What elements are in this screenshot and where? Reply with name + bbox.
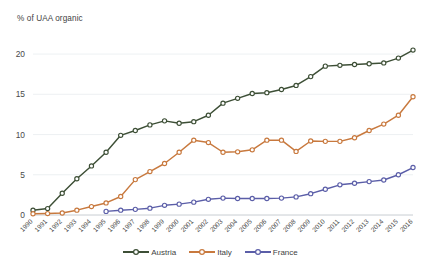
legend-item-austria[interactable]: Austria [123, 247, 176, 257]
series-point-marker [250, 91, 254, 95]
series-point-marker [294, 83, 298, 87]
series-point-marker [104, 201, 108, 205]
series-point-marker [265, 91, 269, 95]
x-axis-tick-label: 2001 [179, 218, 195, 234]
series-point-marker [60, 211, 64, 215]
x-axis-tick-label: 2014 [369, 218, 385, 234]
series-point-marker [338, 63, 342, 67]
series-point-marker [294, 195, 298, 199]
series-point-marker [352, 62, 356, 66]
chart-legend: AustriaItalyFrance [0, 247, 421, 257]
x-axis-tick-label: 1996 [106, 218, 122, 234]
x-axis-tick-label: 2006 [252, 218, 268, 234]
series-point-marker [382, 178, 386, 182]
x-axis-tick-label: 2002 [194, 218, 210, 234]
series-point-marker [279, 87, 283, 91]
y-axis-tick-label: 0 [20, 210, 25, 220]
series-point-marker [31, 212, 35, 216]
x-axis-tick-label: 1992 [48, 218, 64, 234]
series-point-marker [396, 113, 400, 117]
x-axis-tick-label: 1997 [121, 218, 137, 234]
series-point-marker [177, 202, 181, 206]
x-axis-tick-label: 2009 [296, 218, 312, 234]
chart-plot-area: 05101520 1990199119921993199419951996199… [0, 0, 421, 266]
series-point-marker [352, 136, 356, 140]
series-point-marker [162, 203, 166, 207]
series-point-marker [206, 113, 210, 117]
series-point-marker [236, 196, 240, 200]
series-point-marker [119, 133, 123, 137]
series-point-marker [338, 139, 342, 143]
series-point-marker [162, 119, 166, 123]
series-point-marker [279, 196, 283, 200]
legend-label: France [273, 248, 298, 257]
y-axis-tick-labels: 05101520 [16, 49, 26, 220]
series-point-marker [75, 208, 79, 212]
y-axis-tick-label: 15 [16, 89, 26, 99]
series-point-marker [60, 191, 64, 195]
series-point-marker [162, 161, 166, 165]
series-point-marker [338, 183, 342, 187]
x-axis-tick-label: 1994 [77, 218, 93, 234]
series-point-marker [236, 150, 240, 154]
y-axis-tick-label: 20 [16, 49, 26, 59]
series-point-marker [104, 209, 108, 213]
series-point-marker [367, 180, 371, 184]
series-point-marker [192, 200, 196, 204]
series-point-marker [104, 150, 108, 154]
data-series [31, 48, 415, 216]
x-axis-tick-label: 2000 [165, 218, 181, 234]
x-axis-tick-label: 2008 [281, 218, 297, 234]
series-point-marker [206, 197, 210, 201]
series-point-marker [148, 123, 152, 127]
legend-line-marker-icon [123, 247, 149, 257]
series-point-marker [89, 164, 93, 168]
series-point-marker [309, 75, 313, 79]
series-point-marker [192, 120, 196, 124]
legend-label: Austria [151, 248, 176, 257]
x-axis-tick-label: 2003 [208, 218, 224, 234]
series-point-marker [133, 128, 137, 132]
series-point-marker [323, 64, 327, 68]
series-point-marker [309, 139, 313, 143]
x-axis-tick-label: 1998 [135, 218, 151, 234]
series-point-marker [148, 206, 152, 210]
series-point-marker [206, 140, 210, 144]
series-point-marker [133, 178, 137, 182]
series-point-marker [177, 150, 181, 154]
series-point-marker [265, 138, 269, 142]
legend-item-france[interactable]: France [245, 247, 298, 257]
series-point-marker [192, 138, 196, 142]
series-point-marker [411, 48, 415, 52]
x-axis-tick-label: 2016 [398, 218, 414, 234]
series-point-marker [382, 122, 386, 126]
series-point-marker [119, 194, 123, 198]
series-point-marker [221, 101, 225, 105]
x-axis-tick-label: 2007 [267, 218, 283, 234]
series-point-marker [411, 95, 415, 99]
series-point-marker [396, 56, 400, 60]
legend-label: Italy [217, 248, 232, 257]
legend-item-italy[interactable]: Italy [189, 247, 232, 257]
x-axis-tick-label: 1995 [91, 218, 107, 234]
series-point-marker [221, 196, 225, 200]
x-axis-tick-label: 2012 [340, 218, 356, 234]
x-axis-tick-label: 2004 [223, 218, 239, 234]
series-point-marker [367, 128, 371, 132]
series-point-marker [75, 177, 79, 181]
legend-line-marker-icon [189, 247, 215, 257]
x-axis-tick-label: 2015 [384, 218, 400, 234]
series-point-marker [221, 150, 225, 154]
series-point-marker [367, 62, 371, 66]
series-point-marker [133, 207, 137, 211]
series-point-marker [250, 196, 254, 200]
organic-uaa-line-chart: % of UAA organic 05101520 19901991199219… [0, 0, 421, 266]
series-point-marker [265, 196, 269, 200]
x-axis-tick-label: 2011 [326, 218, 341, 233]
series-point-marker [352, 181, 356, 185]
series-point-marker [148, 169, 152, 173]
series-point-marker [119, 208, 123, 212]
series-line [106, 168, 413, 212]
y-axis-tick-label: 5 [20, 170, 25, 180]
series-point-marker [279, 138, 283, 142]
